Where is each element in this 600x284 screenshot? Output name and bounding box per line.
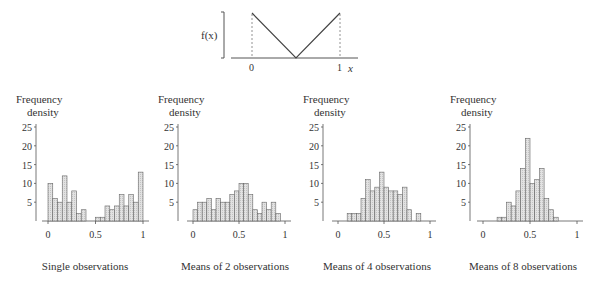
top-density-figure: f(x) 0 1 x: [201, 12, 358, 74]
x-tick-label: 1: [428, 229, 433, 240]
ylabel-line1: Frequency: [450, 93, 497, 105]
histogram-bar: [511, 206, 516, 221]
histogram-bar: [544, 198, 549, 221]
top-xlabel: x: [347, 62, 353, 74]
y-tick-label: 10: [309, 178, 319, 189]
top-tick-1: 1: [337, 62, 342, 73]
histogram-bar: [96, 217, 101, 221]
ylabel-line2: density: [169, 106, 201, 118]
y-tick-label: 25: [22, 122, 32, 133]
panel-title: Means of 2 observations: [181, 260, 289, 272]
y-tick-label: 5: [169, 197, 174, 208]
histogram-bar: [535, 180, 540, 221]
histogram-bar: [347, 213, 352, 221]
histogram-bar: [530, 183, 535, 221]
histogram-bar: [100, 217, 105, 221]
panel-title: Single observations: [42, 260, 128, 272]
histogram-bar: [53, 198, 58, 221]
x-tick-label: 0: [481, 229, 486, 240]
y-tick-label: 25: [309, 122, 319, 133]
histogram-bar: [257, 213, 262, 221]
histogram-bar: [248, 195, 253, 221]
x-tick-label: 1: [141, 229, 146, 240]
top-tick-0: 0: [249, 62, 254, 73]
histogram-bar: [138, 172, 143, 221]
histogram-bar: [81, 210, 86, 221]
histogram-bar: [375, 187, 380, 221]
ylabel-line1: Frequency: [303, 93, 350, 105]
histogram-bar: [124, 206, 129, 221]
panel-title: Means of 8 observations: [469, 260, 577, 272]
histogram-bar: [516, 191, 521, 221]
x-tick-label: 0.5: [233, 229, 246, 240]
histogram-bar: [134, 202, 139, 221]
histogram-bar: [234, 191, 239, 221]
histogram-bar: [72, 191, 77, 221]
histogram-bar: [389, 191, 394, 221]
ylabel-line2: density: [461, 106, 493, 118]
x-tick-label: 0: [336, 229, 341, 240]
histogram-bar: [225, 202, 230, 221]
x-tick-label: 0: [191, 229, 196, 240]
histogram-bar: [521, 168, 526, 221]
histogram-bar: [216, 198, 221, 221]
histogram-bar: [115, 206, 120, 221]
y-tick-label: 20: [309, 141, 319, 152]
x-tick-label: 0: [46, 229, 51, 240]
histogram-bar: [549, 210, 554, 221]
y-tick-label: 10: [456, 178, 466, 189]
histogram-bar: [77, 213, 82, 221]
ylabel-line1: Frequency: [16, 93, 63, 105]
x-tick-label: 1: [283, 229, 288, 240]
y-tick-label: 25: [456, 122, 466, 133]
histogram-bar: [271, 202, 276, 221]
histogram-bar: [539, 168, 544, 221]
histogram-bar: [267, 210, 272, 221]
y-tick-label: 5: [27, 197, 32, 208]
y-tick-label: 20: [164, 141, 174, 152]
density-curve: [252, 13, 340, 58]
ylabel-line2: density: [314, 106, 346, 118]
histogram-bar: [119, 195, 124, 221]
top-ylabel: f(x): [201, 29, 218, 42]
histogram-bar: [67, 202, 72, 221]
histogram-bar: [62, 176, 67, 221]
histogram-bar: [221, 202, 226, 221]
y-tick-label: 10: [164, 178, 174, 189]
histogram-bar: [554, 217, 559, 221]
histogram-bar: [105, 206, 110, 221]
y-tick-label: 10: [22, 178, 32, 189]
histogram-bar: [497, 217, 502, 221]
histogram-panel-3: Frequencydensity51015202500.51Means of 4…: [303, 93, 436, 272]
y-tick-label: 15: [309, 160, 319, 171]
histogram-bar: [193, 210, 198, 221]
histogram-panel-4: Frequencydensity51015202500.51Means of 8…: [450, 93, 583, 272]
histogram-bar: [356, 213, 361, 221]
histogram-bar: [253, 210, 258, 221]
x-tick-label: 0.5: [378, 229, 391, 240]
histogram-bar: [402, 187, 407, 221]
histogram-bar: [58, 202, 63, 221]
histogram-bar: [129, 195, 134, 221]
histogram-bar: [398, 195, 403, 221]
figure-canvas: f(x) 0 1 x Frequencydensity51015202500.5…: [0, 0, 600, 284]
y-tick-label: 5: [461, 197, 466, 208]
ylabel-line2: density: [27, 106, 59, 118]
histogram-panel-1: Frequencydensity51015202500.51Single obs…: [16, 93, 149, 272]
histogram-bar: [525, 138, 530, 221]
histogram-bar: [48, 183, 53, 221]
x-tick-label: 0.5: [524, 229, 537, 240]
y-tick-label: 15: [22, 160, 32, 171]
x-tick-label: 1: [575, 229, 580, 240]
y-tick-label: 20: [22, 141, 32, 152]
histogram-bar: [262, 202, 267, 221]
y-tick-label: 5: [314, 197, 319, 208]
histogram-bar: [379, 172, 384, 221]
histogram-bar: [202, 202, 207, 221]
histogram-bar: [384, 187, 389, 221]
histogram-panel-2: Frequencydensity51015202500.51Means of 2…: [158, 93, 291, 272]
histogram-bar: [370, 191, 375, 221]
histogram-bar: [276, 213, 281, 221]
histogram-bar: [361, 198, 366, 221]
histogram-bar: [352, 213, 357, 221]
